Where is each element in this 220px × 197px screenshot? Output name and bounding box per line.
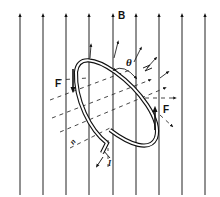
- field-label-b: B: [118, 11, 125, 21]
- force-label-left: F: [55, 79, 61, 89]
- force-label-right: F: [163, 105, 169, 115]
- hatch-mark: [143, 65, 152, 71]
- current-label-i: I: [108, 160, 111, 168]
- magnetic-field-lines: [20, 15, 205, 195]
- angle-label-theta: θ: [126, 57, 132, 68]
- current-loop: [76, 60, 157, 153]
